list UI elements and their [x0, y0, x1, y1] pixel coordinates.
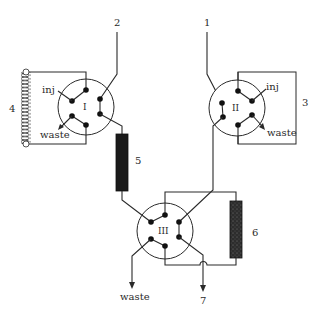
waste-arrow-icon	[129, 282, 135, 289]
inlet-2-line	[100, 32, 117, 99]
valve-diagram: 2 1 4 I inj waste 5	[0, 0, 321, 314]
outlet-7: 7	[179, 237, 206, 306]
valve-III-port-6	[162, 243, 168, 249]
valve-III-port-1	[162, 212, 168, 218]
valve-II-label: II	[232, 103, 240, 113]
loop-3-label: 3	[302, 97, 308, 108]
outlet-7-label: 7	[200, 295, 206, 306]
valve-I-waste-line	[61, 116, 72, 127]
valve-I-port-1	[83, 87, 89, 93]
waste-outlet-label: waste	[120, 291, 150, 302]
valve-I-waste-label: waste	[40, 129, 70, 140]
valve-II-port-6	[235, 122, 241, 128]
valve-II-to-III-wire	[179, 117, 223, 222]
valve-III-port-3	[176, 219, 182, 225]
column-5-outlet-wire	[122, 191, 151, 222]
outlet-7-wire	[179, 237, 203, 286]
inlet-2: 2	[100, 17, 120, 99]
column-6	[230, 201, 242, 258]
column-5-label: 5	[135, 155, 141, 166]
valve-II-port-3	[219, 100, 225, 106]
coil-4-label: 4	[9, 103, 15, 114]
valve-I-port-3	[97, 96, 103, 102]
inlet-1-label: 1	[204, 17, 210, 28]
valve-III-port-2	[148, 219, 154, 225]
coil-4	[21, 72, 31, 144]
column-5	[116, 134, 128, 191]
valve-II-waste-label: waste	[267, 127, 297, 138]
outlet-7-arrow-icon	[200, 285, 206, 292]
valve-I-port-6	[83, 122, 89, 128]
column-6-top-wire	[165, 192, 236, 215]
coil-top-end	[23, 69, 29, 75]
waste-outlet: waste	[120, 239, 151, 302]
valve-I-label: I	[83, 102, 87, 112]
valve-I-inj-label: inj	[42, 84, 55, 95]
coil-bottom-end	[23, 141, 29, 147]
valve-II: II inj waste 3	[209, 72, 308, 144]
column-5-inlet-wire	[100, 114, 122, 134]
column-6-label: 6	[252, 227, 258, 238]
valve-II-inj-label: inj	[266, 81, 279, 92]
column-6-bottom-wire	[165, 246, 236, 265]
valve-II-port-1	[235, 88, 241, 94]
column-5-assembly: 5	[100, 114, 151, 222]
valve-III-label: III	[158, 226, 169, 236]
valve-I: I inj waste	[40, 79, 114, 140]
inlet-2-label: 2	[114, 17, 120, 28]
